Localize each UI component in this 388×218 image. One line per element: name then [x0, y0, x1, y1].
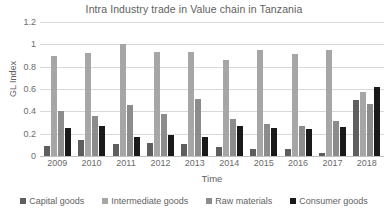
chart-legend: Capital goodsIntermediate goodsRaw mater… — [0, 196, 388, 206]
legend-label: Raw materials — [215, 196, 272, 206]
y-axis-title: GL Index — [8, 49, 18, 109]
bar-group — [74, 22, 108, 156]
bar — [216, 147, 222, 156]
bar — [271, 128, 277, 156]
x-axis-tick-label: 2010 — [74, 158, 108, 172]
x-axis-tick-label: 2013 — [178, 158, 212, 172]
x-axis-tick-label: 2018 — [350, 158, 384, 172]
bar — [92, 116, 98, 156]
legend-swatch-icon — [206, 198, 212, 204]
x-axis-tick-label: 2017 — [315, 158, 349, 172]
bar — [333, 121, 339, 156]
bar — [306, 129, 312, 156]
bar — [113, 144, 119, 156]
y-axis-tick-label: 0.4 — [0, 107, 36, 116]
bar — [292, 54, 298, 156]
bar — [374, 87, 380, 156]
bar — [195, 99, 201, 156]
legend-item[interactable]: Consumer goods — [290, 196, 368, 206]
bar — [188, 52, 194, 156]
legend-item[interactable]: Raw materials — [206, 196, 272, 206]
x-axis-tick-label: 2009 — [40, 158, 74, 172]
bar — [134, 137, 140, 156]
chart-container: Intra Industry trade in Value chain in T… — [0, 0, 388, 218]
bar-groups — [40, 22, 384, 156]
y-axis-tick-label: 0.6 — [0, 85, 36, 94]
bar-group — [178, 22, 212, 156]
bar — [264, 124, 270, 156]
bar — [168, 135, 174, 156]
bar — [202, 137, 208, 156]
x-axis-tick-label: 2014 — [212, 158, 246, 172]
bar — [319, 153, 325, 156]
bar — [353, 100, 359, 156]
bar — [51, 56, 57, 157]
gridline — [40, 156, 384, 157]
y-axis-tick-label: 0 — [0, 152, 36, 161]
bar — [299, 126, 305, 156]
x-axis-tick-label: 2011 — [109, 158, 143, 172]
bar — [147, 143, 153, 156]
bar — [127, 105, 133, 156]
legend-swatch-icon — [20, 198, 26, 204]
bar-group — [40, 22, 74, 156]
bar — [360, 92, 366, 156]
bar — [237, 126, 243, 156]
x-axis-tick-label: 2012 — [143, 158, 177, 172]
bar — [154, 52, 160, 156]
bar — [161, 114, 167, 156]
bar — [285, 149, 291, 156]
y-axis-tick-label: 0.2 — [0, 129, 36, 138]
bar — [223, 60, 229, 156]
bar — [85, 53, 91, 156]
bar-group — [143, 22, 177, 156]
legend-label: Capital goods — [29, 196, 84, 206]
bar — [250, 149, 256, 156]
x-axis-tick-label: 2016 — [281, 158, 315, 172]
x-axis-title: Time — [40, 173, 384, 184]
bar — [181, 144, 187, 156]
bar-group — [281, 22, 315, 156]
bar — [257, 50, 263, 156]
bar — [58, 111, 64, 156]
legend-swatch-icon — [102, 198, 108, 204]
legend-item[interactable]: Intermediate goods — [102, 196, 188, 206]
y-axis-tick-label: 1 — [0, 40, 36, 49]
legend-item[interactable]: Capital goods — [20, 196, 84, 206]
bar-group — [315, 22, 349, 156]
x-axis-tick-labels: 2009201020112012201320142015201620172018 — [40, 158, 384, 172]
bar — [99, 126, 105, 156]
bar-group — [246, 22, 280, 156]
chart-title: Intra Industry trade in Value chain in T… — [0, 3, 388, 15]
bar — [120, 44, 126, 156]
plot-area — [40, 22, 384, 156]
bar — [44, 146, 50, 156]
bar-group — [212, 22, 246, 156]
legend-label: Intermediate goods — [111, 196, 188, 206]
bar — [340, 127, 346, 156]
bar-group — [109, 22, 143, 156]
bar — [326, 50, 332, 156]
x-axis-tick-label: 2015 — [246, 158, 280, 172]
bar-group — [350, 22, 384, 156]
legend-label: Consumer goods — [299, 196, 368, 206]
y-axis-tick-label: 1.2 — [0, 18, 36, 27]
bar — [230, 119, 236, 156]
y-axis-tick-label: 0.8 — [0, 62, 36, 71]
bar — [367, 104, 373, 156]
bar — [78, 140, 84, 156]
legend-swatch-icon — [290, 198, 296, 204]
bar — [65, 128, 71, 156]
